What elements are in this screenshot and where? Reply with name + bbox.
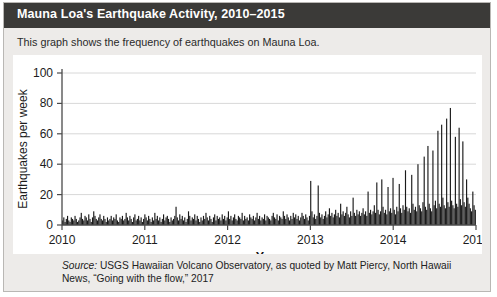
chart-plot-card: 020406080100201020112012201320142015Year… — [13, 55, 482, 254]
y-axis-tick-label: 0 — [46, 218, 53, 232]
earthquake-bar-chart: 020406080100201020112012201320142015Year… — [13, 55, 482, 254]
x-axis-title: Year — [256, 250, 283, 254]
y-axis-tick-label: 40 — [40, 157, 54, 171]
page-title: Mauna Loa's Earthquake Activity, 2010–20… — [17, 7, 285, 21]
figure-subtitle: This graph shows the frequency of earthq… — [17, 36, 320, 48]
source-text: USGS Hawaiian Volcano Observatory, as qu… — [62, 260, 451, 284]
figure-title-bar: Mauna Loa's Earthquake Activity, 2010–20… — [4, 3, 490, 28]
y-axis-tick-label: 60 — [40, 127, 54, 141]
x-axis-tick-label: 2013 — [297, 233, 324, 247]
figure-card: Mauna Loa's Earthquake Activity, 2010–20… — [3, 2, 491, 292]
x-axis-tick-label: 2014 — [380, 233, 407, 247]
y-axis-tick-label: 100 — [33, 66, 53, 80]
x-axis-tick-label: 2011 — [132, 233, 158, 247]
x-axis-tick-label: 2012 — [214, 233, 241, 247]
y-axis-tick-label: 80 — [40, 96, 54, 110]
x-axis-tick-label: 2015 — [463, 233, 482, 247]
figure-source-note: Source: USGS Hawaiian Volcano Observator… — [4, 259, 490, 286]
y-axis-tick-label: 20 — [40, 188, 54, 202]
bars-group — [62, 108, 476, 225]
source-label: Source: — [62, 260, 97, 271]
y-axis-title: Earthquakes per week — [16, 88, 30, 208]
x-axis-tick-label: 2010 — [49, 233, 76, 247]
